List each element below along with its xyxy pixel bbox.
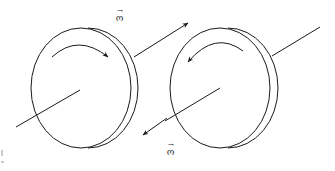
omega-label-bottom: → ω <box>165 143 177 157</box>
right-disk <box>143 27 320 148</box>
left-disk-face <box>31 28 131 148</box>
right-axle-back <box>272 27 320 56</box>
omega-label-top: → ω <box>114 9 126 23</box>
left-disk <box>16 23 188 148</box>
right-omega-arrow <box>143 118 167 135</box>
omega-symbol: ω <box>116 14 123 23</box>
left-axle-front <box>16 90 80 127</box>
edge-marks <box>1 150 4 162</box>
right-rotation-arrow-icon <box>188 43 243 62</box>
right-axle-front <box>165 88 220 121</box>
left-rotation-arrow-icon <box>52 45 108 57</box>
omega-symbol: ω <box>167 148 174 157</box>
